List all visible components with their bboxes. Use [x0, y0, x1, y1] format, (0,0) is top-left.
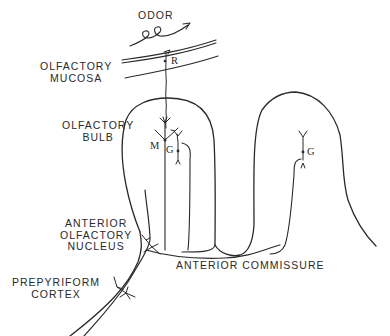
label-odor: ODOR — [138, 10, 174, 22]
label-mitral-cell: M — [150, 140, 159, 151]
mitral-cell — [155, 117, 178, 250]
odor-flow-arrow — [130, 23, 190, 46]
olfactory-pathway-diagram: ODOR OLFACTORY MUCOSA OLFACTORY BULB ANT… — [0, 0, 390, 336]
label-anterior-olfactory-nucleus: ANTERIOR OLFACTORY NUCLEUS — [60, 218, 132, 253]
label-olfactory-mucosa: OLFACTORY MUCOSA — [40, 61, 112, 84]
label-granule-cell-right: G — [307, 146, 315, 157]
label-olfactory-bulb: OLFACTORY BULB — [62, 120, 134, 143]
label-receptor-cell: R — [171, 55, 178, 66]
granule-cell-left — [174, 131, 190, 250]
label-granule-cell-left: G — [166, 144, 174, 155]
receptor-cell — [164, 50, 170, 128]
granule-cell-right — [270, 131, 307, 254]
label-anterior-commissure: ANTERIOR COMMISSURE — [176, 260, 325, 272]
olfactory-mucosa-layers — [122, 40, 218, 78]
label-prepyriform-cortex: PREPYRIFORM CORTEX — [12, 277, 100, 300]
